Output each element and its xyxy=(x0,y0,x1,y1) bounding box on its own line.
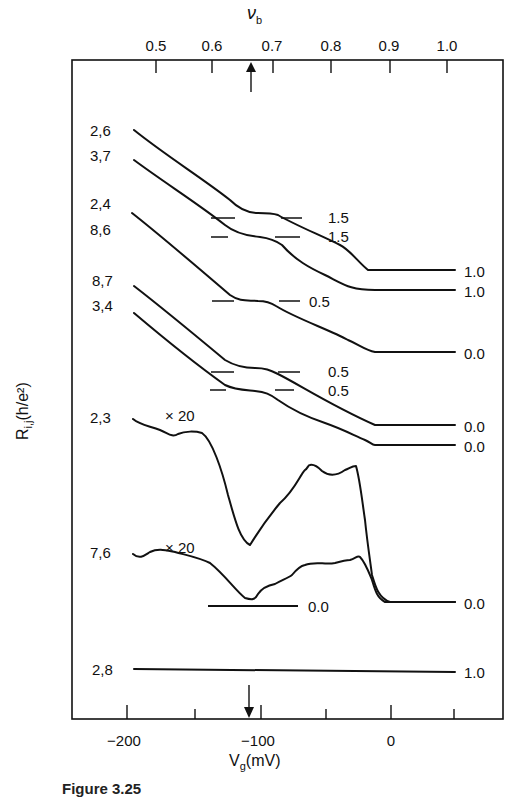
nu-symbol: ν xyxy=(247,3,256,23)
plateau-label: 0.5 xyxy=(309,294,330,309)
curve-2-8 xyxy=(134,669,455,672)
end-label: 0.0 xyxy=(464,596,485,611)
top-tick-label: 1.0 xyxy=(437,38,458,53)
curve-label-7-6: 7,6 xyxy=(90,545,111,560)
curve-label-2-8: 2,8 xyxy=(92,662,113,677)
plateau-label: 1.5 xyxy=(328,229,349,244)
curve-8-7 xyxy=(134,286,455,425)
curve-label-8-6: 8,6 xyxy=(90,222,111,237)
end-label: 1.0 xyxy=(464,284,485,299)
end-label: 1.0 xyxy=(464,264,485,279)
top-tick-label: 0.8 xyxy=(321,38,342,53)
top-axis-title-sub: b xyxy=(256,14,262,26)
plateau-markers xyxy=(208,218,302,606)
top-tick-label: 0.6 xyxy=(202,38,223,53)
bottom-tick-label: −100 xyxy=(241,733,275,748)
curve-2-6 xyxy=(134,130,455,270)
y-axis-title-sub: i,j xyxy=(22,420,34,428)
top-tick-label: 0.5 xyxy=(146,38,167,53)
curve-label-2-4: 2,4 xyxy=(90,196,111,211)
curve-label-3-7: 3,7 xyxy=(90,148,111,163)
top-axis-ticks xyxy=(156,60,447,73)
end-label: 0.0 xyxy=(464,439,485,454)
curve-2-4 xyxy=(132,213,455,352)
y-axis-title: Ri,j(h/e²) xyxy=(14,382,34,440)
curve-2-3 xyxy=(133,419,455,602)
curve-label-2-3: 2,3 xyxy=(90,410,111,425)
curve-label-2-6: 2,6 xyxy=(90,123,111,138)
plateau-label: 0.5 xyxy=(328,383,349,398)
r-symbol: R xyxy=(14,428,31,440)
bottom-arrow-icon xyxy=(244,685,254,718)
plateau-label: 0.5 xyxy=(328,364,349,379)
bottom-axis-title: Vg(mV) xyxy=(229,752,280,772)
reference-label: 0.0 xyxy=(308,599,329,614)
curve-label-8-7: 8,7 xyxy=(92,273,113,288)
curve-7-6 xyxy=(133,550,455,602)
end-label: 0.0 xyxy=(464,419,485,434)
figure-caption: Figure 3.25 xyxy=(62,780,141,797)
bottom-axis-ticks xyxy=(127,705,454,719)
scale-label-x20: × 20 xyxy=(165,540,195,555)
y-axis-unit: (h/e²) xyxy=(14,382,31,420)
top-axis-title: νb xyxy=(247,3,262,26)
bottom-tick-label: 0 xyxy=(387,733,395,748)
end-label: 0.0 xyxy=(464,346,485,361)
top-arrow-icon xyxy=(246,62,256,92)
plateau-label: 1.5 xyxy=(328,210,349,225)
end-label: 1.0 xyxy=(464,665,485,680)
top-tick-label: 0.9 xyxy=(379,38,400,53)
vg-symbol: V xyxy=(229,752,240,769)
bottom-tick-label: −200 xyxy=(107,733,141,748)
bottom-axis-unit: (mV) xyxy=(246,752,281,769)
top-tick-label: 0.7 xyxy=(262,38,283,53)
curve-label-3-4: 3,4 xyxy=(92,298,113,313)
scale-label-x20: × 20 xyxy=(165,408,195,423)
